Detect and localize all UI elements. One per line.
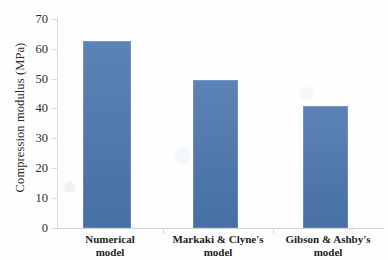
y-tick-label: 50 bbox=[36, 73, 49, 86]
x-category-label-gibson-ashby-model: Gibson & Ashby's model bbox=[273, 233, 383, 258]
x-category-label-line: Markaki & Clyne's bbox=[163, 233, 273, 246]
y-tick-label: 10 bbox=[36, 192, 49, 205]
x-category-label-line: model bbox=[57, 246, 163, 259]
y-tick-label: 30 bbox=[36, 132, 49, 145]
y-tick-label: 70 bbox=[36, 13, 49, 26]
bar-numerical-model bbox=[83, 41, 131, 228]
y-tick-label: 20 bbox=[36, 162, 49, 175]
y-tick-label: 0 bbox=[42, 222, 48, 235]
bar-chart: Compression modulus (MPa) 70 60 50 40 30… bbox=[0, 0, 388, 260]
bar-gibson-ashby-model bbox=[303, 106, 348, 228]
y-tick-label: 40 bbox=[36, 102, 49, 115]
y-axis-line bbox=[57, 18, 58, 229]
x-category-label-line: Gibson & Ashby's bbox=[273, 233, 383, 246]
x-category-label-markaki-clyne-model: Markaki & Clyne's model bbox=[163, 233, 273, 258]
x-axis-line bbox=[57, 228, 383, 229]
y-tick-label: 60 bbox=[36, 43, 49, 56]
x-category-label-numerical-model: Numerical model bbox=[57, 233, 163, 258]
x-category-label-line: model bbox=[163, 246, 273, 259]
x-category-label-line: Numerical bbox=[57, 233, 163, 246]
bar-markaki-clyne-model bbox=[193, 80, 238, 228]
x-category-label-line: model bbox=[273, 246, 383, 259]
y-axis-tick-labels: 70 60 50 40 30 20 10 0 bbox=[0, 0, 48, 260]
